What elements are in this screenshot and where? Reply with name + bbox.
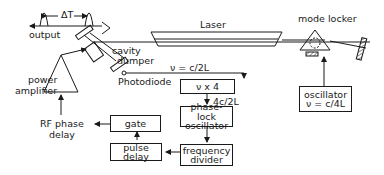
multiplier-box: ν x 4 [180,79,235,94]
phase-lock-label-2: oscillator [185,121,228,131]
end-mirror [356,38,367,61]
multiplier-label: ν x 4 [196,82,219,92]
power-amplifier-label-1: power [28,75,57,85]
pulse-delay-box: pulse delay [110,143,162,161]
laser-label: Laser [200,20,226,30]
mode-locker-label: mode locker [298,14,357,24]
phase-lock-oscillator-box: phase-lock oscillator [180,106,233,127]
freq-divider-label-2: divider [190,155,223,165]
pulse-1 [40,13,48,26]
oscillator-box: oscillator ν = c/4L [299,86,352,112]
frequency-divider-box: frequency divider [180,144,233,166]
photodiode-label: Photodiode [118,77,171,87]
output-label: output [29,30,60,40]
power-amplifier-label-2: amplifier [15,86,57,96]
output-mirror [75,25,93,39]
oscillator-label-2: ν = c/4L [306,99,345,109]
gate-box: gate [110,115,161,132]
phase-lock-label-1: phase-lock [181,102,232,121]
pulse-delay-label: pulse delay [111,143,161,162]
rf-phase-delay-label-1: RF phase [40,119,84,129]
cavity-dumper-crystal [84,42,103,62]
rf-phase-delay-label-2: delay [49,130,75,140]
freq-c2l-label: ν = c/2L [170,63,209,73]
pulse-2 [85,13,93,26]
delta-t-label: ΔT [61,10,73,20]
gate-label: gate [125,119,146,129]
cavity-dumper-label-2: dumper [117,56,154,66]
